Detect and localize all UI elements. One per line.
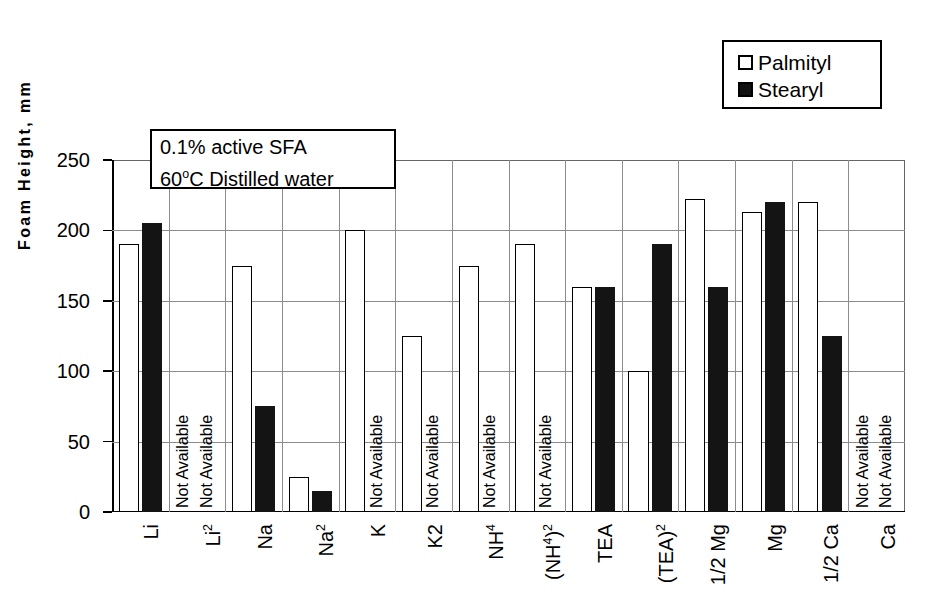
y-axis-tick-label: 100 [32,361,90,381]
category-gridline [565,160,566,512]
bar-palmityl-Mg [742,212,762,512]
category-gridline [169,160,170,512]
category-gridline [225,160,226,512]
bar-stearyl-TEA [595,287,615,512]
annotation-line-2: 60oC Distilled water [160,161,394,193]
y-axis-tick [103,370,112,372]
x-axis-label-Li: Li [141,524,161,540]
x-axis-label-NH4: NH4 [481,524,506,560]
bar-palmityl-Na2 [289,477,309,512]
x-axis-label-(TEA)2: (TEA)2 [651,524,676,583]
bar-palmityl-NH4 [459,266,479,512]
x-axis-label-Na: Na [255,524,275,550]
x-axis-label-Na2: Na2 [311,524,336,556]
not-available-label: Not Available [855,415,871,508]
bar-palmityl-(NH4)2 [515,244,535,512]
y-axis-tick-label: 250 [32,150,90,170]
y-axis-tick-label: 0 [32,502,90,522]
annotation-line-1: 0.1% active SFA [160,134,394,161]
not-available-label: Not Available [538,415,554,508]
y-axis-tick-label: 50 [32,432,90,452]
not-available-label: Not Available [175,415,191,508]
x-axis-label-Li2: Li2 [198,524,223,546]
x-axis-label-Mg: Mg [765,524,785,552]
bar-stearyl-(TEA)2 [652,244,672,512]
y-axis-line [112,160,114,512]
bar-palmityl-Na [232,266,252,512]
category-gridline [395,160,396,512]
x-axis-label-Ca: Ca [878,524,898,550]
x-axis-label-K2: K2 [425,524,445,548]
not-available-label: Not Available [425,415,441,508]
category-gridline [792,160,793,512]
category-gridline [452,160,453,512]
bar-palmityl-K2 [402,336,422,512]
bar-palmityl-K [345,230,365,512]
not-available-label: Not Available [369,415,385,508]
bar-palmityl-1/2 Ca [798,202,818,512]
x-axis-label-1/2 Ca: 1/2 Ca [821,524,841,583]
not-available-label: Not Available [482,415,498,508]
plot-area: Not AvailableNot AvailableNot AvailableN… [112,160,905,512]
category-gridline [622,160,623,512]
y-axis-tick [103,300,112,302]
bar-palmityl-1/2 Mg [685,199,705,512]
bar-stearyl-Mg [765,202,785,512]
y-axis-tick-label: 200 [32,220,90,240]
bar-stearyl-Na2 [312,491,332,512]
category-gridline [848,160,849,512]
x-axis-label-(NH4)2: (NH4)2 [538,524,563,580]
bar-palmityl-TEA [572,287,592,512]
category-gridline [735,160,736,512]
y-axis-tick-label: 150 [32,291,90,311]
bar-stearyl-1/2 Mg [708,287,728,512]
bar-palmityl-(TEA)2 [628,371,648,512]
y-axis-tick [103,511,112,513]
not-available-label: Not Available [878,415,894,508]
category-gridline [509,160,510,512]
x-axis-label-TEA: TEA [595,524,615,563]
y-axis-tick [103,230,112,232]
bar-stearyl-Li [142,223,162,512]
annotation-box: 0.1% active SFA 60oC Distilled water [150,129,396,189]
not-available-label: Not Available [199,415,215,508]
category-gridline [282,160,283,512]
bar-palmityl-Li [119,244,139,512]
bar-stearyl-1/2 Ca [822,336,842,512]
category-gridline [678,160,679,512]
y-axis-tick [103,441,112,443]
chart-canvas: Palmityl Stearyl Foam Height, mm 0501001… [0,0,936,614]
category-gridline [339,160,340,512]
x-axis-label-K: K [368,524,388,537]
x-axis-label-1/2 Mg: 1/2 Mg [708,524,728,585]
plot-right-border [904,160,906,512]
y-axis-tick [103,159,112,161]
bar-stearyl-Na [255,406,275,512]
